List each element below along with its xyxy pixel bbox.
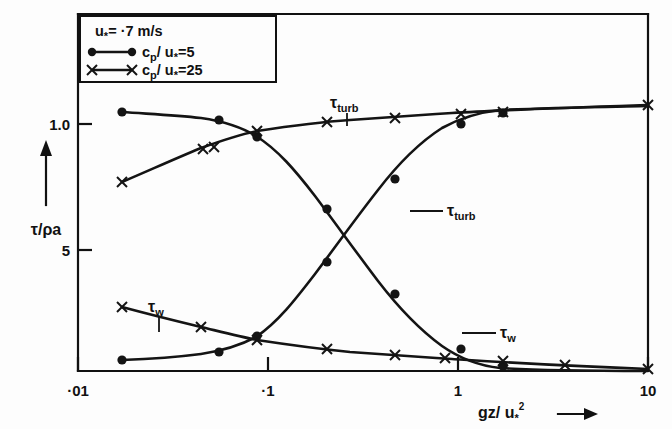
tau-glyph: τ: [330, 94, 337, 111]
annotation-tau-turb-rising: τturb: [410, 202, 476, 222]
legend-cp25-rest: / u: [157, 62, 174, 78]
legend-cp25-value: =25: [178, 62, 203, 78]
tau-glyph: τ: [148, 298, 155, 315]
tau-subscript: w: [506, 332, 516, 344]
tau-subscript: turb: [454, 210, 476, 222]
stress-profile-chart: 1.0 5 ·01 ·1 1 10 τ/ρa gz/ u*2 u*= ·7 m/…: [0, 0, 672, 429]
data-point: [117, 355, 126, 364]
legend-cp-main: c: [142, 44, 150, 60]
tau-glyph: τ: [500, 324, 507, 341]
data-point: [390, 289, 399, 298]
legend-cp25-main: c: [142, 62, 150, 78]
series-tau-w-wave-age-25: [117, 302, 653, 374]
y-tick-label-1: 1.0: [49, 116, 70, 133]
legend-marker-circle-right: [128, 48, 136, 56]
tau-subscript: w: [154, 306, 164, 318]
data-point: [117, 107, 126, 116]
annotation-tau-w-right: τw: [462, 324, 516, 344]
legend-cp-value: =5: [178, 44, 195, 60]
legend-u-rest: = ·7 m/s: [108, 23, 162, 39]
tau-subscript: turb: [337, 102, 359, 114]
x-tick-label-1: ·1: [261, 382, 274, 399]
legend: u*= ·7 m/s cp/ u*=5 cp/ u*=25: [80, 16, 276, 82]
data-point: [322, 204, 331, 213]
legend-marker-circle-left: [88, 48, 96, 56]
x-axis-title-main: gz/ u: [478, 404, 514, 421]
y-tick-label-0: 5: [62, 242, 70, 259]
annotation-label-tau-w-right: τw: [500, 324, 516, 344]
x-tick-label-2: 1: [454, 382, 462, 399]
data-point: [322, 257, 331, 266]
legend-u-symbol: u: [95, 23, 104, 39]
x-axis-title-sup: 2: [519, 401, 525, 412]
data-point: [456, 109, 466, 119]
x-axis-title: gz/ u*2: [478, 401, 525, 424]
legend-label-circle: cp/ u*=5: [142, 44, 195, 63]
y-axis-title-group: τ/ρa: [31, 140, 61, 238]
x-axis-title-sub: *: [514, 412, 519, 424]
data-point: [214, 347, 223, 356]
legend-condition-text: u*= ·7 m/s: [95, 23, 163, 42]
legend-label-cross: cp/ u*=25: [142, 62, 203, 81]
curve-tau-turb-25: [122, 105, 648, 182]
annotation-label-tau-turb-rising: τturb: [447, 202, 476, 222]
x-tick-label-0: ·01: [67, 382, 89, 399]
annotation-label-tau-turb-upper: τturb: [330, 94, 359, 114]
x-axis-title-group: gz/ u*2: [478, 401, 598, 424]
legend-entry-cross: cp/ u*=25: [87, 62, 203, 81]
x-axis-arrow-head: [584, 408, 598, 420]
tau-glyph: τ: [447, 202, 454, 219]
data-point: [456, 119, 465, 128]
y-axis-arrow-head: [40, 140, 52, 156]
series-tau-turb-wave-age-25: [117, 100, 653, 187]
curve-tau-w-5: [122, 106, 648, 360]
data-point: [117, 177, 127, 187]
y-axis-ticks: [78, 124, 92, 250]
figure-container: 1.0 5 ·01 ·1 1 10 τ/ρa gz/ u*2 u*= ·7 m/…: [0, 0, 672, 429]
data-point: [214, 115, 223, 124]
legend-entry-circle: cp/ u*=5: [88, 44, 195, 63]
data-point: [456, 344, 465, 353]
y-axis-title: τ/ρa: [31, 221, 61, 238]
legend-cp-rest: / u: [157, 44, 174, 60]
x-tick-label-3: 10: [640, 382, 657, 399]
data-point: [390, 174, 399, 183]
